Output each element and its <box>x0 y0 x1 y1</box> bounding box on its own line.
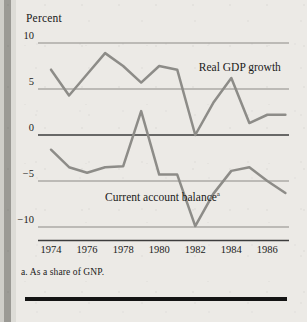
series-label-current-account-text: Current account balance <box>105 191 217 203</box>
x-tick-label: 1984 <box>211 244 251 255</box>
y-tick-label: −10 <box>8 215 34 225</box>
y-tick-label: 0 <box>8 123 34 133</box>
series-label-current-account-balance: Current account balancea <box>105 190 220 203</box>
x-tick-label: 1974 <box>31 244 71 255</box>
series-label-real-gdp-growth: Real GDP growth <box>199 61 281 73</box>
y-tick-label: 5 <box>8 77 34 87</box>
x-tick-label: 1986 <box>247 244 287 255</box>
x-tick-label: 1976 <box>67 244 107 255</box>
footnote: a. As a share of GNP. <box>21 267 104 277</box>
y-tick-label: −5 <box>8 169 34 179</box>
x-tick-label: 1978 <box>103 244 143 255</box>
x-tick-label: 1982 <box>175 244 215 255</box>
bottom-rule <box>25 297 287 301</box>
series-line-current-account-balance <box>51 111 285 226</box>
y-tick-label: 10 <box>8 31 34 41</box>
footnote-marker: a <box>217 190 220 198</box>
x-tick-label: 1980 <box>139 244 179 255</box>
